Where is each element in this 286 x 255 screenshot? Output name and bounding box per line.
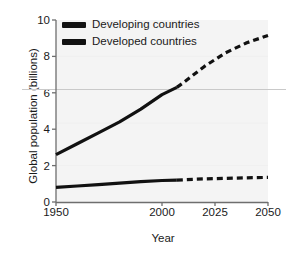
legend-swatch-developed bbox=[62, 39, 86, 45]
legend-label-developing: Developing countries bbox=[92, 18, 199, 31]
x-tick-label: 1950 bbox=[36, 206, 76, 218]
x-tick-label: 2000 bbox=[142, 206, 182, 218]
legend-item-developed: Developed countries bbox=[62, 35, 199, 48]
chart-legend: Developing countries Developed countries bbox=[62, 18, 199, 48]
legend-swatch-developing bbox=[62, 22, 86, 28]
x-tick-label: 2025 bbox=[195, 206, 235, 218]
legend-item-developing: Developing countries bbox=[62, 18, 199, 31]
population-chart-figure: Global population (billions) 0246810 195… bbox=[0, 0, 286, 255]
legend-label-developed: Developed countries bbox=[92, 35, 197, 48]
x-axis-title: Year bbox=[56, 232, 270, 244]
x-tick-label: 2050 bbox=[248, 206, 286, 218]
